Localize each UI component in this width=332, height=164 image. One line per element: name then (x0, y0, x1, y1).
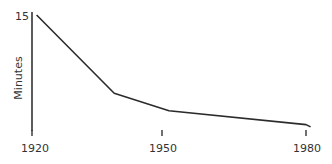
x-tick-label-1950: 1950 (149, 142, 177, 155)
y-axis-label: Minutes (12, 56, 25, 100)
line-chart: 15 Minutes 1920 1950 1980 (0, 0, 332, 164)
x-tick-label-1980: 1980 (293, 142, 321, 155)
series-line-minutes (37, 15, 311, 127)
y-tick-label-15: 15 (15, 10, 29, 23)
x-tick-label-1920: 1920 (21, 142, 49, 155)
